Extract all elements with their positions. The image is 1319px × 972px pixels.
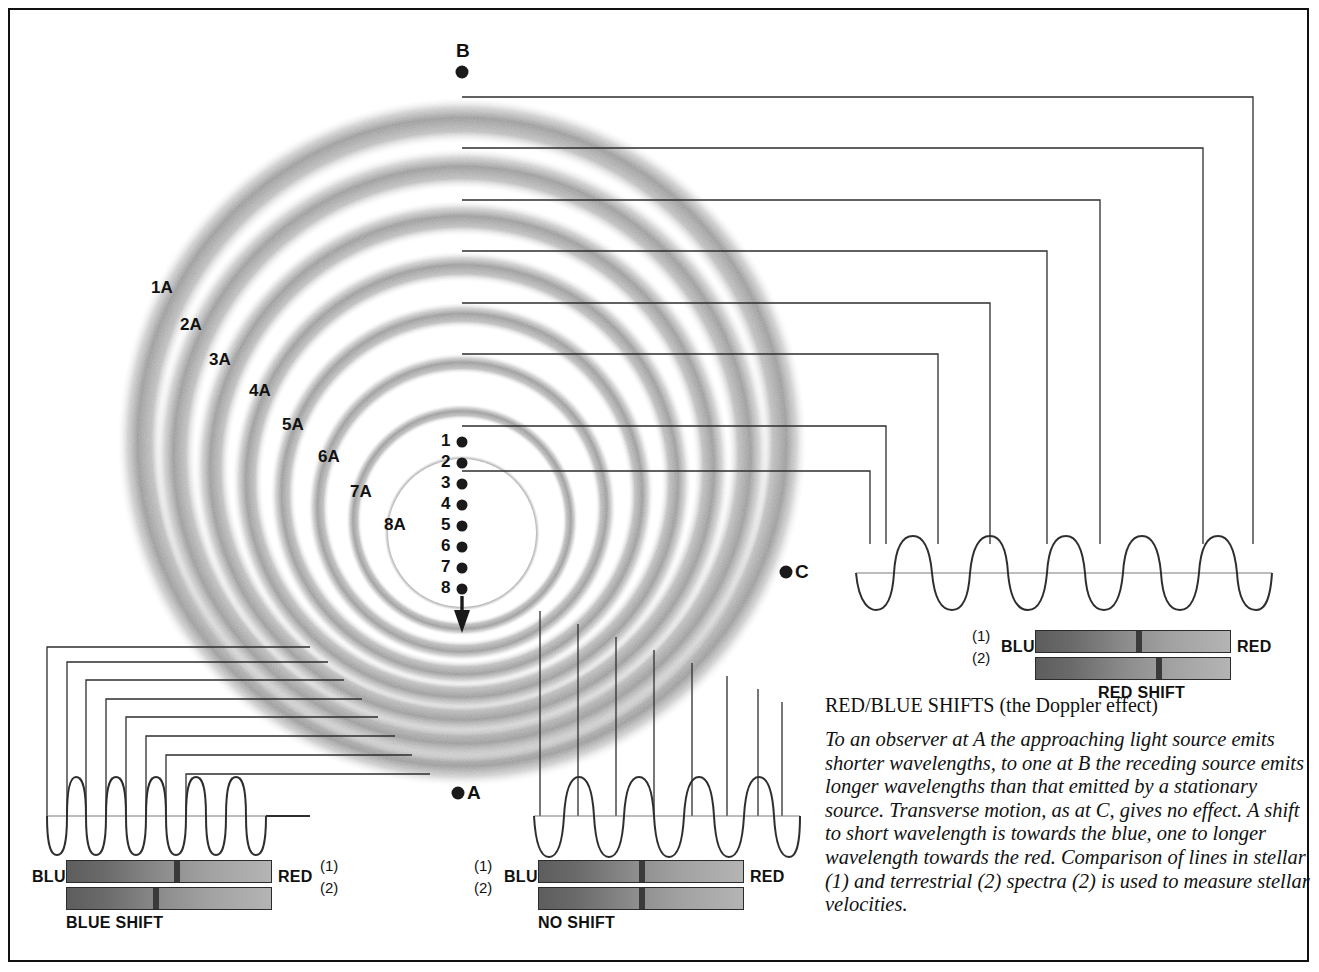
observer-point-a: [452, 787, 465, 800]
source-dot-8: [457, 584, 468, 595]
blue-red-end-label: RED: [278, 868, 313, 886]
none-red-end-label: RED: [750, 868, 785, 886]
wavefront-label-1a: 1A: [151, 278, 173, 298]
observer-label-a: A: [467, 782, 481, 804]
wavefront-label-3a: 3A: [209, 350, 231, 370]
emission-label-2: 2: [441, 452, 450, 472]
spectrum-bar-red-2: [1035, 657, 1231, 680]
source-dot-7: [457, 563, 468, 574]
red-series-label-1: (1): [972, 627, 990, 644]
blue-series-label-2: (2): [320, 879, 338, 896]
source-dot-4: [457, 500, 468, 511]
wavefront-label-6a: 6A: [318, 447, 340, 467]
spectrum-gradient: [67, 861, 271, 882]
red-red-end-label: RED: [1237, 638, 1272, 656]
emission-label-5: 5: [441, 515, 450, 535]
figure-frame: B C A 1A 2A 3A 4A 5A 6A 7A 8A 1 2 3 4 5 …: [8, 8, 1309, 962]
source-dot-1: [457, 437, 468, 448]
spectrum-gradient: [67, 888, 271, 909]
spectrum-bar-none-1: [538, 860, 744, 883]
caption-body: To an observer at A the approaching ligh…: [825, 728, 1312, 917]
spectrum-bar-red-1: [1035, 630, 1231, 653]
absorption-line-stellar: [174, 861, 180, 882]
emission-label-6: 6: [441, 536, 450, 556]
wavefront-label-4a: 4A: [249, 381, 271, 401]
spectrum-gradient: [1036, 658, 1230, 679]
source-dot-6: [457, 542, 468, 553]
emission-label-4: 4: [441, 494, 450, 514]
observer-point-b: [456, 66, 469, 79]
blue-shift-caption: BLUE SHIFT: [66, 914, 163, 932]
absorption-line-terrestrial: [1156, 658, 1162, 679]
emission-label-3: 3: [441, 473, 450, 493]
diagram-stage: B C A 1A 2A 3A 4A 5A 6A 7A 8A 1 2 3 4 5 …: [10, 10, 1307, 960]
emission-label-7: 7: [441, 557, 450, 577]
caption-title: RED/BLUE SHIFTS (the Doppler effect): [825, 694, 1305, 717]
source-dot-5: [457, 521, 468, 532]
wavefront-label-8a: 8A: [384, 515, 406, 535]
none-series-label-1: (1): [474, 857, 492, 874]
absorption-line-terrestrial: [153, 888, 159, 909]
observer-label-b: B: [456, 40, 470, 62]
no-shift-caption: NO SHIFT: [538, 914, 615, 932]
wavefront-label-2a: 2A: [180, 315, 202, 335]
blue-series-label-1: (1): [320, 857, 338, 874]
spectrum-bar-blue-2: [66, 887, 272, 910]
none-series-label-2: (2): [474, 879, 492, 896]
absorption-line-terrestrial: [639, 888, 645, 909]
spectrum-gradient: [1036, 631, 1230, 652]
motion-arrow-head: [454, 610, 470, 633]
wavefront-label-5a: 5A: [282, 415, 304, 435]
spectrum-bar-none-2: [538, 887, 744, 910]
source-dot-3: [457, 479, 468, 490]
spectrum-bar-blue-1: [66, 860, 272, 883]
absorption-line-stellar: [639, 861, 645, 882]
source-dot-2: [457, 458, 468, 469]
red-series-label-2: (2): [972, 649, 990, 666]
observer-point-c: [780, 566, 793, 579]
emission-label-1: 1: [441, 431, 450, 451]
observer-label-c: C: [795, 561, 809, 583]
emission-label-8: 8: [441, 578, 450, 598]
absorption-line-stellar: [1136, 631, 1142, 652]
wavefront-label-7a: 7A: [350, 482, 372, 502]
